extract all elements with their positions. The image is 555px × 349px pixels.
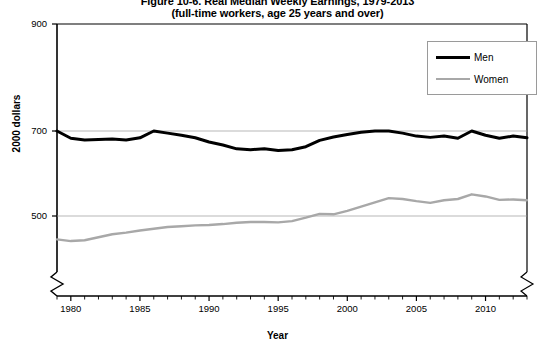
legend-swatch-men-icon: [436, 56, 470, 59]
legend: Men Women: [427, 41, 537, 95]
figure-chart: Figure 10-6. Real Median Weekly Earnings…: [0, 0, 555, 349]
legend-entry-men: Men: [436, 50, 493, 64]
legend-swatch-women-icon: [436, 78, 470, 80]
legend-label-women: Women: [474, 74, 508, 85]
legend-label-men: Men: [474, 52, 493, 63]
legend-entry-women: Women: [436, 72, 508, 86]
